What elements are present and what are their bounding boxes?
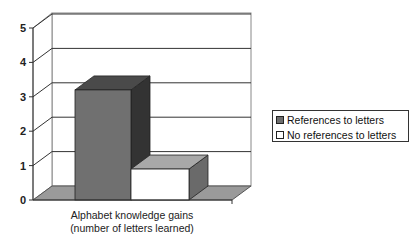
y-tick-label: 4 — [20, 56, 27, 68]
legend-swatch-dark-icon — [276, 116, 284, 124]
legend-label: No references to letters — [287, 129, 396, 141]
legend-item-no-references: No references to letters — [276, 127, 405, 142]
y-tick-label: 2 — [20, 125, 26, 137]
legend-swatch-white-icon — [276, 131, 284, 139]
x-axis-title-line1: Alphabet knowledge gains — [71, 209, 194, 221]
x-axis-title-line2: (number of letters learned) — [70, 222, 194, 234]
bar-no-references — [131, 155, 208, 200]
y-axis-ticks: 012345 — [20, 22, 33, 206]
legend-label: References to letters — [287, 114, 384, 126]
chart-plot-area: 012345 Alphabet knowledge gains (number … — [0, 0, 260, 244]
legend-item-references: References to letters — [276, 112, 405, 127]
y-tick-label: 1 — [20, 160, 26, 172]
y-tick-label: 3 — [20, 91, 26, 103]
y-tick-label: 0 — [20, 194, 26, 206]
legend: References to letters No references to l… — [272, 110, 409, 142]
y-tick-label: 5 — [20, 22, 26, 34]
side-wall — [33, 13, 52, 200]
